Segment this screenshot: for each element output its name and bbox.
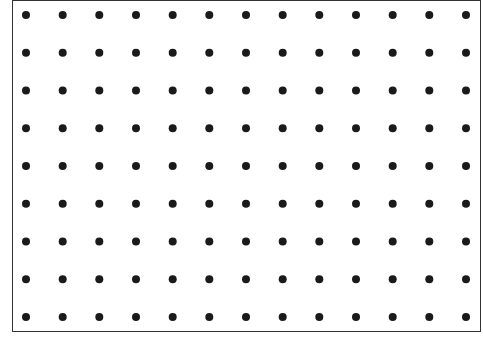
grid-dot xyxy=(59,11,67,19)
grid-dot xyxy=(169,87,177,95)
grid-dot xyxy=(242,49,250,57)
grid-dot xyxy=(315,200,323,208)
grid-dot xyxy=(242,238,250,246)
grid-dot xyxy=(59,87,67,95)
grid-dot xyxy=(462,87,470,95)
grid-dot xyxy=(462,49,470,57)
grid-dot xyxy=(425,238,433,246)
grid-dot xyxy=(462,313,470,321)
grid-dot xyxy=(315,313,323,321)
grid-dot xyxy=(389,11,397,19)
grid-dot xyxy=(389,162,397,170)
grid-dot xyxy=(279,124,287,132)
grid-dot xyxy=(389,200,397,208)
grid-dot xyxy=(205,275,213,283)
grid-dot xyxy=(59,162,67,170)
grid-dot xyxy=(352,313,360,321)
grid-dot xyxy=(462,275,470,283)
grid-dot xyxy=(315,49,323,57)
grid-dot xyxy=(279,238,287,246)
grid-dot xyxy=(352,275,360,283)
grid-dot xyxy=(95,200,103,208)
grid-dot xyxy=(132,87,140,95)
dot-grid xyxy=(0,0,483,339)
grid-dot xyxy=(95,49,103,57)
grid-dot xyxy=(242,313,250,321)
grid-dot xyxy=(279,87,287,95)
grid-dot xyxy=(59,238,67,246)
grid-dot xyxy=(352,200,360,208)
grid-dot xyxy=(425,200,433,208)
grid-dot xyxy=(352,238,360,246)
grid-dot xyxy=(279,162,287,170)
grid-dot xyxy=(205,200,213,208)
grid-dot xyxy=(315,87,323,95)
grid-dot xyxy=(242,124,250,132)
grid-dot xyxy=(315,11,323,19)
grid-dot xyxy=(352,162,360,170)
grid-dot xyxy=(132,124,140,132)
grid-dot xyxy=(462,11,470,19)
grid-dot xyxy=(205,162,213,170)
grid-dot xyxy=(389,124,397,132)
grid-dot xyxy=(242,275,250,283)
grid-dot xyxy=(95,238,103,246)
grid-dot xyxy=(132,49,140,57)
grid-dot xyxy=(425,11,433,19)
grid-dot xyxy=(462,162,470,170)
grid-dot xyxy=(352,87,360,95)
grid-dot xyxy=(132,200,140,208)
grid-dot xyxy=(22,238,30,246)
grid-dot xyxy=(169,200,177,208)
grid-dot xyxy=(22,49,30,57)
grid-dot xyxy=(389,313,397,321)
grid-dot xyxy=(59,49,67,57)
grid-dot xyxy=(205,124,213,132)
grid-dot xyxy=(132,11,140,19)
grid-dot xyxy=(22,275,30,283)
grid-dot xyxy=(389,238,397,246)
grid-dot xyxy=(205,238,213,246)
grid-dot xyxy=(242,200,250,208)
grid-dot xyxy=(462,124,470,132)
grid-dot xyxy=(389,275,397,283)
grid-dot xyxy=(22,200,30,208)
grid-dot xyxy=(279,313,287,321)
grid-dot xyxy=(59,275,67,283)
grid-dot xyxy=(132,162,140,170)
grid-dot xyxy=(132,275,140,283)
grid-dot xyxy=(205,313,213,321)
grid-dot xyxy=(95,275,103,283)
grid-dot xyxy=(315,238,323,246)
grid-dot xyxy=(205,11,213,19)
grid-dot xyxy=(389,87,397,95)
grid-dot xyxy=(352,124,360,132)
grid-dot xyxy=(279,275,287,283)
grid-dot xyxy=(425,49,433,57)
grid-dot xyxy=(425,124,433,132)
grid-dot xyxy=(389,49,397,57)
grid-dot xyxy=(169,162,177,170)
grid-dot xyxy=(22,313,30,321)
grid-dot xyxy=(22,124,30,132)
grid-dot xyxy=(352,11,360,19)
grid-dot xyxy=(22,162,30,170)
grid-dot xyxy=(425,162,433,170)
grid-dot xyxy=(425,87,433,95)
grid-dot xyxy=(95,11,103,19)
grid-dot xyxy=(169,11,177,19)
grid-dot xyxy=(132,238,140,246)
grid-dot xyxy=(22,87,30,95)
grid-dot xyxy=(169,124,177,132)
grid-dot xyxy=(205,87,213,95)
grid-dot xyxy=(169,275,177,283)
grid-dot xyxy=(425,313,433,321)
grid-dot xyxy=(169,313,177,321)
grid-dot xyxy=(279,200,287,208)
grid-dot xyxy=(242,87,250,95)
grid-dot xyxy=(315,162,323,170)
grid-dot xyxy=(352,49,360,57)
grid-dot xyxy=(169,238,177,246)
grid-dot xyxy=(59,200,67,208)
grid-dot xyxy=(95,162,103,170)
